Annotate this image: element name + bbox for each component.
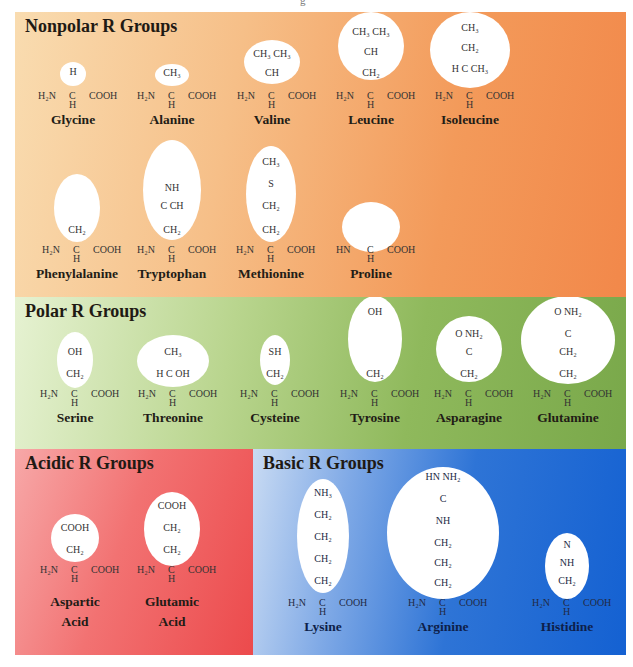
carboxyl-group: COOH [583,597,611,608]
amine-group: H₂N [137,244,155,255]
amino-acid-name: Lysine [304,617,342,637]
r-group-atom: HN NH₂ [426,471,461,482]
r-group-atom: CH₂ [66,544,83,555]
amine-group: H₂N [533,388,551,399]
nonpolar-panel: Nonpolar R Groups HH₂NCHCOOHGlycineCH₃H₂… [15,12,626,297]
alpha-hydrogen: H [69,99,76,110]
amine-group: H₂N [137,564,155,575]
carboxyl-group: COOH [288,90,316,101]
carboxyl-group: COOH [459,597,487,608]
r-group-atom: CH₂ [559,346,576,357]
amino-acid-name: Cysteine [250,408,300,428]
r-group-atom: CH₂ [68,224,85,235]
amine-group: H₂N [340,388,358,399]
alpha-hydrogen: H [267,253,274,264]
r-group-atom: CH₂ [163,224,180,235]
r-group-atom: CH₂ [434,577,451,588]
carboxyl-group: COOH [584,388,612,399]
carboxyl-group: COOH [93,244,121,255]
r-group-atom: CH₂ [314,553,331,564]
amino-acid-name: Arginine [417,617,468,637]
r-group-atom: CH₂ [314,575,331,586]
r-group-atom: S [268,178,274,189]
amino-acid-name: Valine [254,110,290,130]
amine-group: H₂N [408,597,426,608]
amino-acid-name: Glutamine [537,408,599,428]
r-group-atom: CH₂ [366,368,383,379]
r-group-atom: H [69,66,76,77]
r-group-atom: CH₂ [163,544,180,555]
amine-group: H₂N [336,90,354,101]
r-group-highlight [137,335,209,387]
amine-group: H₂N [38,90,56,101]
alpha-hydrogen: H [168,253,175,264]
cropped-page-mark: g [300,0,306,6]
panel-title: Basic R Groups [263,453,384,474]
r-group-atom: COOH [61,522,89,533]
r-group-atom: NH [436,515,450,526]
r-group-atom: CH₂ [461,42,478,53]
r-group-atom: CH₃ [163,67,180,78]
r-group-atom: H C CH₃ [452,63,488,74]
alpha-hydrogen: H [73,253,80,264]
carboxyl-group: COOH [391,388,419,399]
r-group-atom: CH [364,46,378,57]
panel-title: Polar R Groups [25,301,146,322]
amino-acid-name: Threonine [143,408,203,428]
alpha-hydrogen: H [439,606,446,617]
basic-panel: Basic R Groups NH₃CH₂CH₂CH₂CH₂H₂NCHCOOHL… [253,449,626,655]
alpha-hydrogen: H [466,99,473,110]
amino-acid-name: GlutamicAcid [145,592,199,632]
amine-group: H₂N [240,388,258,399]
r-group-atom: CH₃ [262,156,279,167]
carboxyl-group: COOH [486,90,514,101]
r-group-atom: COOH [158,500,186,511]
carboxyl-group: COOH [91,564,119,575]
r-group-atom: C [440,493,447,504]
amino-acid-name: Asparagine [436,408,502,428]
amine-group: H₂N [40,564,58,575]
amine-group: H₂N [434,388,452,399]
alpha-hydrogen: H [71,573,78,584]
amino-acid-name: Isoleucine [441,110,499,130]
amino-acid-name: Tryptophan [138,264,207,284]
alpha-hydrogen: H [563,606,570,617]
carboxyl-group: COOH [291,388,319,399]
r-group-atom: CH₃ [461,22,478,33]
r-group-atom: CH₂ [262,224,279,235]
amine-group: H₂N [42,244,60,255]
r-group-atom: NH [560,557,574,568]
carboxyl-group: COOH [89,90,117,101]
r-group-atom: CH₂ [66,368,83,379]
name-line: Glutamic [145,592,199,612]
amine-group: H₂N [138,388,156,399]
amino-acid-name: Proline [350,264,392,284]
carboxyl-group: COOH [387,90,415,101]
carboxyl-group: COOH [188,90,216,101]
r-group-atom: CH₂ [266,368,283,379]
r-group-atom: SH [269,346,282,357]
amino-acid-name: Alanine [149,110,194,130]
r-group-atom: N [563,539,570,550]
r-group-atom: C [565,328,572,339]
amino-acid-name: Methionine [238,264,304,284]
carboxyl-group: COOH [188,244,216,255]
amino-acid-name: Glycine [51,110,95,130]
r-group-atom: CH₃ CH₃ [253,48,290,59]
r-group-atom: CH₂ [163,522,180,533]
r-group-atom: CH₂ [558,575,575,586]
amine-group: H₂N [237,90,255,101]
r-group-atom: C [466,346,473,357]
carboxyl-group: COOH [188,564,216,575]
polar-panel: Polar R Groups OHCH₂H₂NCHCOOHSerineCH₃H … [15,297,626,449]
r-group-atom: CH [265,67,279,78]
r-group-atom: OH [68,346,82,357]
alpha-hydrogen: H [168,573,175,584]
r-group-atom: CH₂ [362,67,379,78]
carboxyl-group: COOH [339,597,367,608]
amino-acid-name: Histidine [541,617,594,637]
r-group-atom: CH₂ [434,537,451,548]
amine-group: HN [336,244,350,255]
alpha-hydrogen: H [465,397,472,408]
r-group-atom: NH₃ [314,487,332,498]
